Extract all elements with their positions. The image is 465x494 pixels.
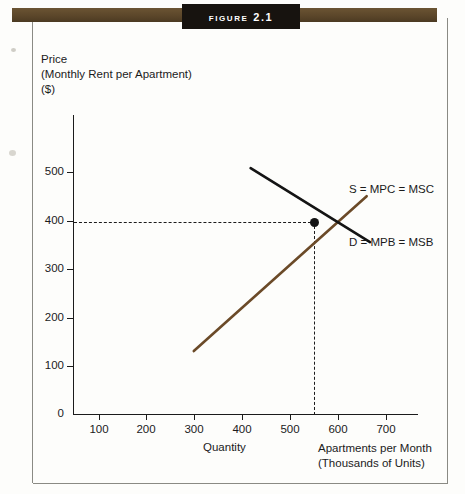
x-axis-caption-line-1: Apartments per Month xyxy=(318,441,432,456)
x-axis-caption-apartments: Apartments per Month (Thousands of Units… xyxy=(318,441,432,471)
x-axis-caption-quantity: Quantity xyxy=(203,441,246,453)
figure-page: Figure 2.1 Price (Monthly Rent per Apart… xyxy=(0,0,465,494)
demand-curve xyxy=(251,168,370,242)
supply-curve-label: S = MPC = MSC xyxy=(349,183,434,195)
supply-curve xyxy=(194,196,367,351)
demand-curve-label: D = MPB = MSB xyxy=(349,236,433,248)
plot-area: 500 400 300 200 100 0 100 200 300 400 50… xyxy=(0,0,465,494)
x-axis-caption-line-2: (Thousands of Units) xyxy=(318,456,432,471)
equilibrium-point xyxy=(310,218,319,227)
